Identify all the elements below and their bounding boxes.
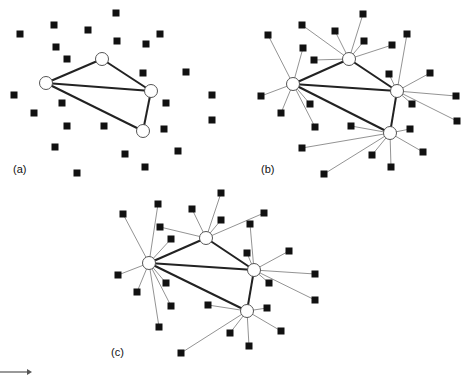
hub-node — [143, 257, 156, 270]
hub-node — [137, 125, 150, 138]
square-node — [218, 217, 225, 224]
panel-c — [115, 190, 319, 357]
square-node — [168, 303, 175, 310]
square-node — [453, 93, 460, 100]
panel-b — [258, 11, 461, 178]
spoke-edge — [181, 311, 247, 353]
square-node — [163, 100, 170, 107]
hub-node — [145, 85, 158, 98]
hub-node — [200, 232, 213, 245]
square-node — [407, 126, 414, 133]
hub-node — [343, 53, 356, 66]
square-node — [209, 92, 216, 99]
square-node — [286, 248, 293, 255]
square-node — [409, 101, 416, 108]
square-node — [51, 22, 58, 29]
square-node — [157, 224, 164, 231]
square-node — [53, 44, 60, 51]
square-node — [388, 164, 395, 171]
square-node — [183, 69, 190, 76]
spoke-edge — [160, 227, 206, 238]
hub-node — [384, 127, 397, 140]
spoke-edge — [206, 213, 264, 238]
square-node — [74, 170, 81, 177]
square-node — [311, 57, 318, 64]
square-node — [59, 100, 66, 107]
square-node — [189, 206, 196, 213]
square-node — [175, 148, 182, 155]
square-node — [299, 22, 306, 29]
square-node — [11, 92, 18, 99]
hub-edge — [293, 84, 397, 91]
square-node — [31, 110, 38, 117]
hub-node — [40, 77, 53, 90]
hub-edge — [149, 263, 254, 270]
panel-label-a: (a) — [13, 163, 26, 175]
square-node — [114, 38, 121, 45]
panel-label-c: (c) — [111, 346, 124, 358]
square-node — [120, 211, 127, 218]
square-node — [205, 302, 212, 309]
square-node — [52, 144, 59, 151]
hub-node — [248, 264, 261, 277]
square-node — [312, 271, 319, 278]
square-node — [155, 201, 162, 208]
hub-edge — [149, 263, 247, 311]
square-node — [265, 32, 272, 39]
spoke-edge — [302, 25, 349, 59]
spoke-edge — [302, 133, 390, 148]
square-node — [122, 151, 129, 158]
square-node — [143, 41, 150, 48]
square-node — [163, 280, 170, 287]
panel-label-b: (b) — [261, 163, 274, 175]
square-node — [227, 330, 234, 337]
square-node — [264, 305, 271, 312]
square-node — [209, 117, 216, 124]
square-node — [312, 297, 319, 304]
square-node — [115, 272, 122, 279]
square-node — [361, 38, 368, 45]
square-node — [85, 27, 92, 34]
square-node — [168, 236, 175, 243]
square-node — [161, 126, 168, 133]
square-node — [64, 123, 71, 130]
square-node — [244, 250, 251, 257]
network-diagram — [0, 0, 473, 375]
square-node — [258, 93, 265, 100]
square-node — [332, 28, 339, 35]
arrow-icon — [0, 369, 32, 375]
square-node — [261, 210, 268, 217]
square-node — [178, 350, 185, 357]
square-node — [312, 124, 319, 131]
square-node — [278, 110, 285, 117]
spoke-edge — [268, 35, 293, 84]
square-node — [140, 70, 147, 77]
square-node — [454, 118, 461, 125]
square-node — [386, 71, 393, 78]
square-node — [134, 289, 141, 296]
spoke-edge — [324, 133, 390, 174]
square-node — [17, 31, 24, 38]
hub-edge — [46, 59, 102, 83]
hub-edge — [149, 238, 206, 263]
spoke-edge — [206, 193, 221, 238]
square-node — [427, 70, 434, 77]
spoke-edge — [349, 14, 363, 59]
panel-a — [11, 10, 216, 177]
square-node — [420, 149, 427, 156]
square-node — [101, 123, 108, 130]
square-node — [157, 31, 164, 38]
square-node — [266, 280, 273, 287]
hub-edge — [293, 59, 349, 84]
spoke-edge — [254, 270, 315, 300]
hub-node — [241, 305, 254, 318]
square-node — [360, 11, 367, 18]
square-node — [142, 164, 149, 171]
spoke-edge — [397, 34, 407, 91]
square-node — [369, 152, 376, 159]
square-node — [156, 324, 163, 331]
square-node — [278, 328, 285, 335]
square-node — [113, 10, 120, 17]
square-node — [389, 42, 396, 49]
square-node — [404, 31, 411, 38]
